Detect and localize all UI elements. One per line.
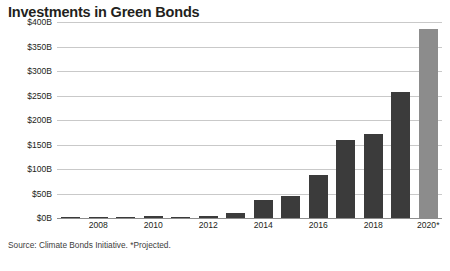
x-axis: 2008201020122014201620182020* xyxy=(57,220,442,234)
y-axis-tick-label: $100B xyxy=(27,164,52,174)
bar xyxy=(61,217,80,218)
y-axis: $0B$50B$100B$150B$200B$250B$300B$350B$40… xyxy=(0,22,52,218)
y-axis-tick-label: $350B xyxy=(27,42,52,52)
bar xyxy=(391,92,410,218)
x-axis-tick-label: 2012 xyxy=(199,220,218,230)
bar-series xyxy=(57,22,442,218)
bar xyxy=(281,196,300,218)
x-axis-tick-label: 2018 xyxy=(364,220,383,230)
x-axis-tick-label: 2020* xyxy=(417,220,439,230)
bar xyxy=(336,140,355,218)
bar xyxy=(254,200,273,218)
y-axis-tick-label: $50B xyxy=(32,189,52,199)
bar xyxy=(116,217,135,218)
bar xyxy=(309,175,328,218)
y-axis-tick-label: $200B xyxy=(27,115,52,125)
bar xyxy=(171,217,190,218)
x-axis-tick-label: 2016 xyxy=(309,220,328,230)
source-note: Source: Climate Bonds Initiative. *Proje… xyxy=(8,240,171,250)
bar xyxy=(226,213,245,218)
y-axis-tick-label: $250B xyxy=(27,91,52,101)
x-axis-tick-label: 2010 xyxy=(144,220,163,230)
y-axis-tick-label: $0B xyxy=(37,213,52,223)
bar xyxy=(199,216,218,218)
axis-baseline xyxy=(57,218,442,219)
x-axis-tick-label: 2008 xyxy=(89,220,108,230)
y-axis-tick-label: $150B xyxy=(27,140,52,150)
plot-area xyxy=(57,22,442,218)
chart-container: Investments in Green Bonds $0B$50B$100B$… xyxy=(0,0,450,271)
x-axis-tick-label: 2014 xyxy=(254,220,273,230)
y-axis-tick-label: $400B xyxy=(27,17,52,27)
bar xyxy=(89,217,108,218)
bar xyxy=(364,134,383,218)
bar xyxy=(144,216,163,218)
bar xyxy=(419,29,438,218)
y-axis-tick-label: $300B xyxy=(27,66,52,76)
